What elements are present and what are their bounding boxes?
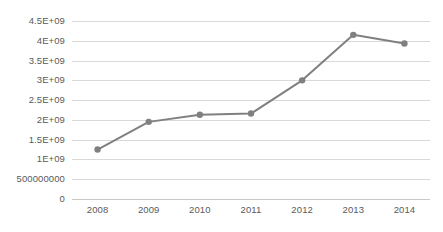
- x-axis-tick-label: 2008: [76, 204, 120, 215]
- series-markers: [94, 32, 407, 153]
- data-point-marker: [299, 77, 305, 83]
- y-axis-tick-label: 2E+09: [0, 114, 65, 125]
- y-axis-tick-label: 3.5E+09: [0, 55, 65, 66]
- y-axis-tick-label: 0: [0, 193, 65, 204]
- plot-area: [72, 21, 430, 199]
- line-chart: 05000000001E+091.5E+092E+092.5E+093E+093…: [0, 0, 443, 232]
- x-axis-tick-label: 2010: [178, 204, 222, 215]
- data-point-marker: [197, 112, 203, 118]
- series-layer: [72, 21, 430, 199]
- x-axis-tick-label: 2009: [127, 204, 171, 215]
- series-line: [98, 35, 405, 150]
- y-axis-tick-label: 2.5E+09: [0, 94, 65, 105]
- data-point-marker: [248, 110, 254, 116]
- y-axis-tick-label: 500000000: [0, 173, 65, 184]
- y-axis-tick-label: 1.5E+09: [0, 134, 65, 145]
- data-point-marker: [146, 119, 152, 125]
- x-axis-tick-label: 2013: [331, 204, 375, 215]
- x-axis-tick-label: 2012: [280, 204, 324, 215]
- y-axis-tick-label: 1E+09: [0, 153, 65, 164]
- x-axis-tick-label: 2011: [229, 204, 273, 215]
- y-axis-tick-label: 4.5E+09: [0, 15, 65, 26]
- data-point-marker: [94, 146, 100, 152]
- data-point-marker: [401, 40, 407, 46]
- x-axis-line: [72, 199, 430, 200]
- y-axis-tick-label: 4E+09: [0, 35, 65, 46]
- data-point-marker: [350, 32, 356, 38]
- y-axis-tick-label: 3E+09: [0, 74, 65, 85]
- x-axis-tick-label: 2014: [382, 204, 426, 215]
